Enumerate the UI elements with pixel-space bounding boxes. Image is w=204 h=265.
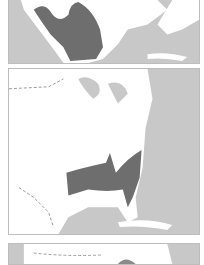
range-map-1 bbox=[8, 0, 200, 64]
range-map-2 bbox=[8, 68, 200, 235]
range-map-3 bbox=[8, 243, 200, 265]
map-3-svg bbox=[9, 244, 199, 264]
map-1-svg bbox=[9, 0, 199, 63]
map-2-svg bbox=[9, 69, 199, 234]
